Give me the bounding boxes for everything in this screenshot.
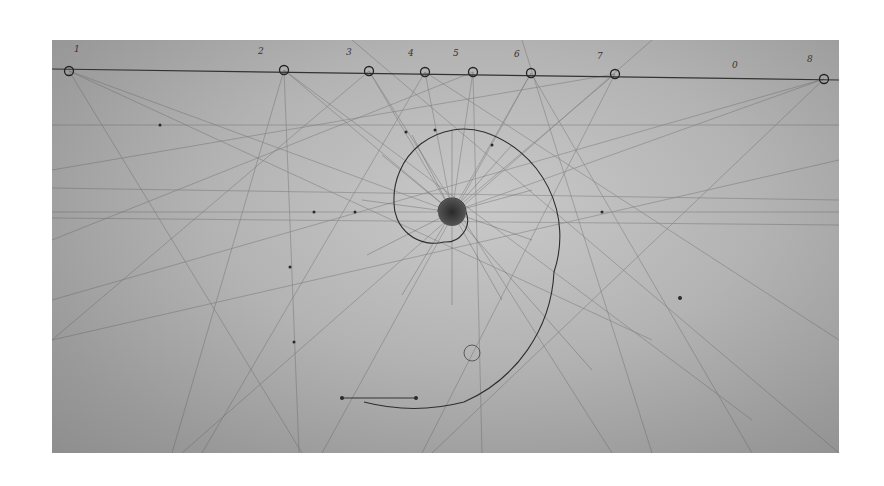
label-3: 3 (346, 47, 352, 57)
label-4: 4 (407, 48, 414, 58)
construction-lines (52, 40, 839, 453)
spiral-center (438, 198, 466, 226)
construction-points (159, 124, 683, 401)
label-2: 2 (257, 46, 264, 56)
spiral-curve (364, 129, 560, 408)
construction-circle (464, 345, 480, 361)
label-5: 5 (453, 48, 459, 58)
label-0: 0 (732, 60, 738, 70)
baseline-labels: 1 2 3 4 5 6 7 0 8 (74, 44, 813, 70)
label-7: 7 (597, 51, 603, 61)
drawing-layer: 1 2 3 4 5 6 7 0 8 (52, 40, 839, 453)
label-8: 8 (807, 54, 813, 64)
spiral-construction-photo: 1 2 3 4 5 6 7 0 8 (52, 40, 839, 453)
label-1: 1 (74, 44, 80, 54)
baseline (52, 69, 839, 80)
label-6: 6 (514, 49, 520, 59)
